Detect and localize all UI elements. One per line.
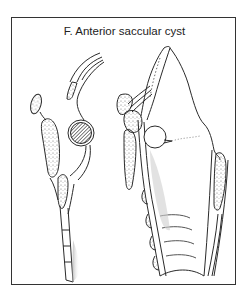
left-view <box>29 53 104 282</box>
anatomical-illustration <box>0 0 249 295</box>
right-view <box>117 47 228 277</box>
